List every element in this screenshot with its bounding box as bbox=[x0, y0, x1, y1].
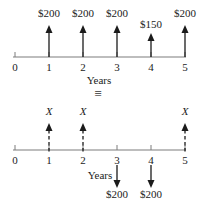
tick-label-bottom-3: 3 bbox=[114, 154, 120, 166]
tick-label-top-0: 0 bbox=[12, 61, 18, 73]
tick-label-top-4: 4 bbox=[148, 61, 154, 73]
cash-flow-label-top-year-1: $200 bbox=[38, 7, 61, 19]
tick-label-top-1: 1 bbox=[46, 61, 52, 73]
cash-flow-arrowhead-up-top-year-3 bbox=[114, 25, 121, 33]
cash-flow-arrowhead-down-bottom-year-3 bbox=[114, 180, 121, 188]
tick-label-bottom-0: 0 bbox=[12, 154, 18, 166]
cash-flow-label-bottom-year-3: $200 bbox=[106, 188, 129, 200]
cash-flow-equivalence-figure: 012345Years$200$200$200$150$200012345Yea… bbox=[0, 0, 199, 210]
cash-flow-diagram-canvas: 012345Years$200$200$200$150$200012345Yea… bbox=[0, 0, 199, 210]
axis-label-bottom: Years bbox=[88, 169, 113, 181]
cash-flow-label-top-year-5: $200 bbox=[174, 7, 197, 19]
tick-label-bottom-1: 1 bbox=[46, 154, 52, 166]
cash-flow-arrowhead-up-top-year-2 bbox=[80, 25, 87, 33]
cash-flow-label-bottom-year-5: X bbox=[181, 105, 190, 117]
cash-flow-arrowhead-up-bottom-year-2 bbox=[80, 123, 87, 131]
cash-flow-label-bottom-year-1: X bbox=[45, 105, 54, 117]
axis-label-top: Years bbox=[87, 74, 112, 86]
tick-label-bottom-4: 4 bbox=[148, 154, 154, 166]
cash-flow-arrowhead-up-bottom-year-5 bbox=[182, 123, 189, 131]
cash-flow-arrowhead-up-bottom-year-1 bbox=[46, 123, 53, 131]
cash-flow-arrowhead-up-top-year-1 bbox=[46, 25, 53, 33]
cash-flow-arrowhead-up-top-year-4 bbox=[148, 33, 155, 41]
cash-flow-label-top-year-4: $150 bbox=[140, 18, 163, 30]
cash-flow-label-top-year-2: $200 bbox=[72, 7, 95, 19]
tick-label-top-2: 2 bbox=[80, 61, 86, 73]
equivalence-symbol: ≡ bbox=[94, 88, 101, 99]
cash-flow-arrowhead-up-top-year-5 bbox=[182, 25, 189, 33]
cash-flow-label-bottom-year-4: $200 bbox=[140, 188, 163, 200]
tick-label-top-3: 3 bbox=[114, 61, 120, 73]
tick-label-bottom-5: 5 bbox=[182, 154, 188, 166]
tick-label-top-5: 5 bbox=[182, 61, 188, 73]
cash-flow-label-top-year-3: $200 bbox=[106, 7, 129, 19]
cash-flow-label-bottom-year-2: X bbox=[79, 105, 88, 117]
tick-label-bottom-2: 2 bbox=[80, 154, 86, 166]
cash-flow-arrowhead-down-bottom-year-4 bbox=[148, 180, 155, 188]
